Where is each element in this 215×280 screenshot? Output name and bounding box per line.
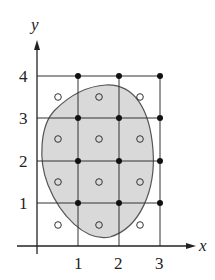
y-tick-1: 1 — [19, 194, 28, 213]
filled-point — [75, 200, 81, 206]
riemann-grid-diagram: y x 4 3 2 1 1 2 3 — [0, 0, 215, 280]
x-axis-arrow-icon — [186, 243, 196, 249]
filled-point — [157, 115, 163, 121]
open-point — [137, 222, 144, 229]
filled-point — [116, 73, 122, 79]
filled-point — [116, 158, 122, 164]
y-tick-4: 4 — [19, 67, 28, 86]
y-tick-2: 2 — [19, 152, 28, 171]
filled-point — [116, 200, 122, 206]
open-point — [55, 222, 62, 229]
x-tick-1: 1 — [74, 254, 83, 273]
y-tick-3: 3 — [19, 109, 28, 128]
filled-point — [75, 73, 81, 79]
y-axis — [34, 40, 40, 254]
filled-point — [75, 115, 81, 121]
x-axis-label: x — [198, 236, 207, 255]
filled-point — [116, 115, 122, 121]
filled-point — [75, 158, 81, 164]
open-point — [55, 94, 62, 101]
y-axis-arrow-icon — [34, 40, 40, 50]
x-tick-2: 2 — [114, 254, 123, 273]
x-axis — [17, 243, 196, 249]
y-axis-label: y — [29, 15, 39, 34]
x-tick-3: 3 — [155, 254, 164, 273]
filled-point — [157, 158, 163, 164]
open-point — [137, 94, 144, 101]
filled-point — [157, 200, 163, 206]
filled-point — [157, 73, 163, 79]
